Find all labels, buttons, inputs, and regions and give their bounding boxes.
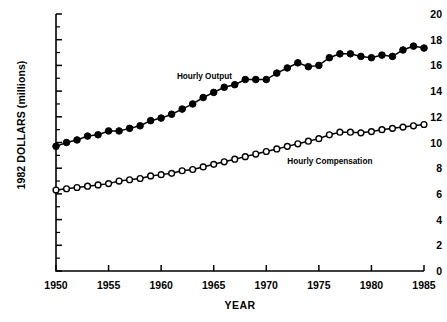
data-point bbox=[379, 127, 385, 133]
data-point bbox=[390, 125, 396, 131]
data-point bbox=[179, 168, 185, 174]
data-point bbox=[137, 122, 144, 129]
data-point bbox=[200, 164, 206, 170]
data-point bbox=[316, 62, 323, 69]
data-point bbox=[316, 136, 322, 142]
data-point bbox=[368, 54, 375, 61]
data-point bbox=[137, 176, 143, 182]
data-point bbox=[158, 172, 164, 178]
data-point bbox=[326, 132, 332, 138]
data-point bbox=[263, 76, 270, 83]
data-point bbox=[358, 130, 364, 136]
data-point bbox=[400, 124, 406, 130]
data-point bbox=[379, 52, 386, 59]
data-point bbox=[95, 131, 102, 138]
data-point bbox=[337, 51, 344, 58]
data-point bbox=[410, 43, 417, 50]
data-point bbox=[263, 149, 269, 155]
data-point bbox=[295, 141, 301, 147]
data-point bbox=[348, 129, 354, 135]
data-point bbox=[168, 111, 175, 118]
data-point bbox=[284, 65, 291, 72]
data-point bbox=[105, 128, 112, 135]
data-point bbox=[200, 94, 207, 101]
data-series-layer bbox=[53, 43, 428, 193]
data-point bbox=[211, 161, 217, 167]
data-point bbox=[242, 76, 249, 83]
data-point bbox=[242, 154, 248, 160]
data-point bbox=[337, 129, 343, 135]
data-point bbox=[126, 125, 133, 132]
data-point bbox=[148, 173, 154, 179]
data-point bbox=[253, 151, 259, 157]
data-point bbox=[411, 123, 417, 129]
x-axis-ticks bbox=[56, 265, 424, 271]
data-point bbox=[389, 53, 396, 60]
data-point bbox=[221, 159, 227, 165]
data-point bbox=[232, 156, 238, 162]
data-point bbox=[63, 139, 70, 146]
data-point bbox=[53, 187, 59, 193]
data-point bbox=[127, 177, 133, 183]
axis-lines bbox=[56, 14, 424, 271]
data-point bbox=[74, 137, 81, 144]
data-point bbox=[231, 81, 238, 88]
data-point bbox=[64, 186, 70, 192]
data-point bbox=[158, 115, 165, 122]
data-point bbox=[74, 185, 80, 191]
data-point bbox=[147, 117, 154, 124]
data-point bbox=[53, 143, 60, 150]
data-point bbox=[305, 63, 312, 70]
data-point bbox=[116, 178, 122, 184]
data-point bbox=[347, 51, 354, 58]
data-point bbox=[274, 70, 281, 77]
data-point bbox=[358, 53, 365, 60]
data-point bbox=[421, 45, 428, 52]
data-point bbox=[274, 146, 280, 152]
data-point bbox=[190, 167, 196, 173]
data-point bbox=[221, 84, 228, 91]
data-point bbox=[189, 101, 196, 108]
data-point bbox=[421, 122, 427, 128]
data-point bbox=[252, 76, 259, 83]
data-point bbox=[106, 181, 112, 187]
data-point bbox=[326, 54, 333, 61]
data-point bbox=[84, 133, 91, 140]
data-point bbox=[295, 60, 302, 67]
data-point bbox=[400, 47, 407, 54]
data-point bbox=[369, 129, 375, 135]
data-point bbox=[179, 106, 186, 113]
data-point bbox=[116, 128, 123, 135]
data-point bbox=[169, 170, 175, 176]
data-point bbox=[284, 143, 290, 149]
data-point bbox=[85, 183, 91, 189]
data-point bbox=[95, 182, 101, 188]
y-axis-ticks bbox=[56, 14, 62, 271]
data-point bbox=[305, 138, 311, 144]
data-point bbox=[210, 89, 217, 96]
